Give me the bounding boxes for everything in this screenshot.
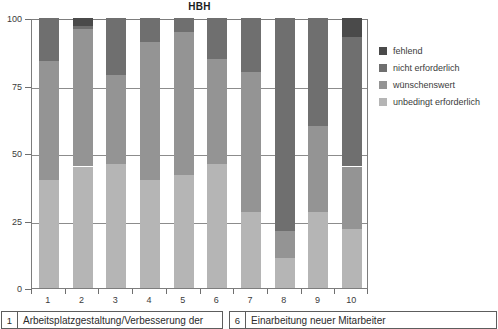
footer-table: 1 Arbeitsplatzgestaltung/Verbesserung de…	[1, 311, 497, 329]
bar-segment	[207, 18, 227, 59]
chart-title: HBH	[31, 1, 368, 12]
bar-segment	[275, 231, 295, 258]
footer-row-text: Arbeitsplatzgestaltung/Verbesserung der	[17, 311, 223, 329]
x-tick-mark	[334, 289, 335, 294]
bar-segment	[73, 29, 93, 167]
y-axis: 0255075100	[0, 19, 31, 290]
bar-segment	[342, 229, 362, 288]
bar-stack	[275, 18, 295, 288]
y-tick-label: 0	[17, 284, 22, 294]
x-tick-label: 5	[180, 295, 185, 305]
x-tick-label: 4	[146, 295, 151, 305]
footer-row-number: 6	[229, 311, 245, 329]
bar-segment	[39, 18, 59, 61]
bar-segment	[174, 32, 194, 175]
legend-swatch-icon	[379, 81, 387, 89]
bar-segment	[275, 258, 295, 288]
legend-item[interactable]: fehlend	[379, 43, 497, 60]
bar-stack	[308, 18, 328, 288]
bar-segment	[73, 167, 93, 289]
x-tick-mark	[367, 289, 368, 294]
x-tick-label: 2	[79, 295, 84, 305]
bar-segment	[308, 126, 328, 212]
x-tick-label: 9	[315, 295, 320, 305]
y-tick-label: 25	[12, 217, 22, 227]
chart-legend: fehlendnicht erforderlichwünschenswertun…	[379, 43, 497, 111]
x-tick-label: 6	[214, 295, 219, 305]
bar-segment	[342, 37, 362, 167]
x-tick-label: 8	[281, 295, 286, 305]
bar-segment	[241, 18, 261, 72]
x-tick-mark	[301, 289, 302, 294]
legend-swatch-icon	[379, 64, 387, 72]
y-tick-label: 50	[12, 149, 22, 159]
footer-row-number: 1	[1, 311, 17, 329]
footer-table-row: 6 Einarbeitung neuer Mitarbeiter	[229, 311, 497, 329]
x-tick-mark	[166, 289, 167, 294]
bar-segment	[207, 164, 227, 288]
bar-segment	[140, 18, 160, 42]
bar-stack	[342, 18, 362, 288]
bar-segment	[207, 59, 227, 164]
bar-segment	[308, 18, 328, 126]
chart-page: HBH 0255075100 12345678910 fehlendnicht …	[0, 0, 498, 329]
bar-stack	[207, 18, 227, 288]
legend-item-label: unbedingt erforderlich	[393, 94, 480, 110]
legend-item[interactable]: nicht erforderlich	[379, 60, 497, 77]
x-tick-mark	[132, 289, 133, 294]
bar-segment	[106, 75, 126, 164]
x-tick-mark	[98, 289, 99, 294]
y-tick-label: 75	[12, 82, 22, 92]
legend-item[interactable]: unbedingt erforderlich	[379, 94, 497, 111]
bar-segment	[140, 180, 160, 288]
footer-table-row: 1 Arbeitsplatzgestaltung/Verbesserung de…	[1, 311, 223, 329]
x-axis: 12345678910	[31, 289, 368, 309]
bar-segment	[73, 26, 93, 29]
bar-segment	[106, 18, 126, 75]
legend-item-label: wünschenswert	[393, 77, 455, 93]
x-tick-mark	[233, 289, 234, 294]
bar-segment	[73, 18, 93, 26]
bar-segment	[308, 212, 328, 288]
x-tick-mark	[65, 289, 66, 294]
plot-area	[31, 19, 368, 289]
bar-segment	[39, 180, 59, 288]
x-tick-mark	[31, 289, 32, 294]
legend-item-label: nicht erforderlich	[393, 60, 460, 76]
bar-segment	[342, 167, 362, 229]
bar-stack	[39, 18, 59, 288]
bar-segment	[174, 175, 194, 288]
x-tick-label: 1	[45, 295, 50, 305]
bar-segment	[140, 42, 160, 180]
bar-stack	[241, 18, 261, 288]
bars-layer	[32, 20, 367, 288]
legend-swatch-icon	[379, 47, 387, 55]
bar-stack	[140, 18, 160, 288]
x-tick-mark	[200, 289, 201, 294]
bar-segment	[342, 18, 362, 37]
bar-segment	[39, 61, 59, 180]
bar-segment	[275, 18, 295, 231]
legend-item-label: fehlend	[393, 43, 423, 59]
legend-swatch-icon	[379, 98, 387, 106]
x-tick-mark	[267, 289, 268, 294]
y-tick-label: 100	[7, 14, 22, 24]
bar-segment	[106, 164, 126, 288]
x-tick-label: 3	[113, 295, 118, 305]
x-tick-label: 7	[248, 295, 253, 305]
bar-stack	[106, 18, 126, 288]
bar-stack	[73, 18, 93, 288]
bar-segment	[241, 72, 261, 212]
bar-segment	[241, 212, 261, 288]
bar-segment	[174, 18, 194, 32]
x-tick-label: 10	[346, 295, 356, 305]
footer-row-text: Einarbeitung neuer Mitarbeiter	[245, 311, 497, 329]
legend-item[interactable]: wünschenswert	[379, 77, 497, 94]
bar-stack	[174, 18, 194, 288]
